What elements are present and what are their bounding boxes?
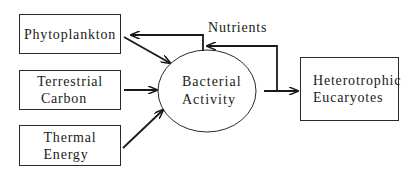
arrow-thermal-to-bacterial xyxy=(123,110,163,148)
node-heterotrophic-label-line1: Heterotrophic xyxy=(313,72,401,89)
node-terrestrial-carbon: Terrestrial Carbon xyxy=(19,70,121,110)
arrow-phytoplankton-to-bacterial xyxy=(124,37,170,63)
node-heterotrophic-label-line2: Eucaryotes xyxy=(313,89,401,106)
node-phytoplankton: Phytoplankton xyxy=(19,14,121,54)
node-heterotrophic-eucaryotes: Heterotrophic Eucaryotes xyxy=(300,57,399,121)
node-thermal-energy: Thermal Energy xyxy=(19,125,121,166)
node-thermal-label-line1: Thermal xyxy=(43,129,96,146)
node-bacterial-activity: Bacterial Activity xyxy=(182,73,242,109)
node-terrestrial-label-line1: Terrestrial xyxy=(37,73,103,90)
node-phytoplankton-label: Phytoplankton xyxy=(24,26,116,43)
node-terrestrial-label-line2: Carbon xyxy=(37,90,103,107)
arrow-nutrients-to-phytoplankton xyxy=(131,35,203,51)
node-bacterial-label-line2: Activity xyxy=(182,91,242,109)
edge-label-nutrients: Nutrients xyxy=(208,20,267,36)
node-bacterial-label-line1: Bacterial xyxy=(182,73,242,91)
node-thermal-label-line2: Energy xyxy=(43,146,96,163)
